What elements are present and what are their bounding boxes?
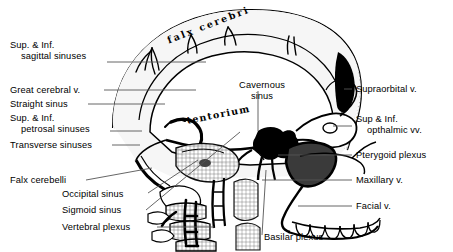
label-falx-cerebelli: Falx cerebelli xyxy=(10,175,66,186)
label-sup-inf-petrosal-sinuses: Sup. & Inf. petrosal sinuses xyxy=(10,113,90,136)
label-line-2: sinus xyxy=(232,91,292,102)
nasal-pharyngeal-structures xyxy=(234,179,260,250)
label-supraorbital-v: Supraorbital v. xyxy=(356,84,417,95)
label-maxillary-v: Maxillary v. xyxy=(356,175,403,186)
label-line-1: Sup. & Inf. xyxy=(10,40,86,51)
label-vertebral-plexus: Vertebral plexus xyxy=(62,222,130,233)
anatomy-figure: Sup. & Inf. sagittal sinuses Great cereb… xyxy=(0,0,453,252)
label-line-2: sagittal sinuses xyxy=(10,51,86,62)
label-sup-inf-sagittal-sinuses: Sup. & Inf. sagittal sinuses xyxy=(10,40,86,63)
label-facial-v: Facial v. xyxy=(356,201,391,212)
label-occipital-sinus: Occipital sinus xyxy=(62,189,123,200)
label-line-1: Sup & Inf. xyxy=(356,114,422,125)
label-great-cerebral-v: Great cerebral v. xyxy=(10,85,80,96)
label-sup-inf-opthalmic-vv: Sup & Inf. opthalmic vv. xyxy=(356,114,422,137)
label-line-2: opthalmic vv. xyxy=(356,125,422,136)
label-line-1: Cavernous xyxy=(232,80,292,91)
label-basilar-plexus: Basilar plexus xyxy=(264,232,323,243)
label-straight-sinus: Straight sinus xyxy=(10,99,68,110)
label-transverse-sinuses: Transverse sinuses xyxy=(10,140,92,151)
label-cavernous-sinus: Cavernous sinus xyxy=(232,80,292,101)
leader-falx-cerebelli xyxy=(86,168,152,180)
label-line-1: Sup. & Inf. xyxy=(10,113,90,124)
label-line-2: petrosal sinuses xyxy=(10,124,90,135)
basilar-plexus-region xyxy=(213,178,226,228)
label-sigmoid-sinus: Sigmoid sinus xyxy=(62,205,121,216)
label-pterygoid-plexus: Pterygoid plexus xyxy=(356,150,426,161)
